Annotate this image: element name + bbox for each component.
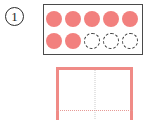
counter-dot-outline	[122, 33, 138, 49]
answer-rectangle	[56, 67, 133, 120]
counter-dot-filled	[65, 11, 81, 27]
counter-dot-outline	[103, 33, 119, 49]
counter-box	[43, 4, 143, 55]
counter-dot-filled	[122, 11, 138, 27]
counter-dot-outline	[84, 33, 100, 49]
horizontal-guide-line	[56, 110, 133, 111]
counter-dot-filled	[65, 33, 81, 49]
problem-number-marker: 1	[5, 7, 24, 26]
problem-number-label: 1	[6, 8, 23, 25]
counter-dot-filled	[46, 33, 62, 49]
counter-dot-filled	[84, 11, 100, 27]
counter-dot-filled	[103, 11, 119, 27]
counter-dot-filled	[46, 11, 62, 27]
counter-row-bottom	[46, 30, 142, 51]
counter-row-top	[46, 8, 142, 29]
vertical-guide-line	[94, 70, 95, 120]
